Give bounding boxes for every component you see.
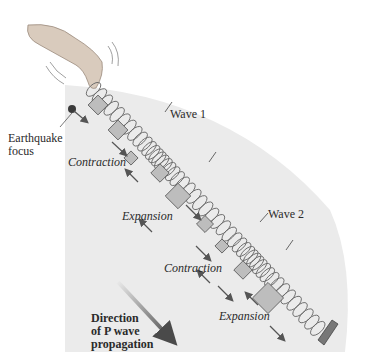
direction-label: Direction of P wave propagation (91, 312, 153, 351)
focus-label-line2: focus (8, 145, 63, 158)
diagram-canvas (0, 0, 369, 364)
p-wave-diagram: Earthquake focus Wave 1 Wave 2 Contracti… (0, 0, 369, 364)
earthquake-focus-label: Earthquake focus (8, 132, 63, 158)
expansion-label-2: Expansion (219, 310, 270, 323)
wave-1-label: Wave 1 (170, 108, 206, 121)
direction-label-line3: propagation (91, 338, 153, 351)
expansion-label-1: Expansion (122, 210, 173, 223)
hand-icon (28, 25, 119, 89)
contraction-label-2: Contraction (164, 262, 222, 275)
wave-2-label: Wave 2 (268, 208, 304, 221)
contraction-label-1: Contraction (68, 156, 126, 169)
